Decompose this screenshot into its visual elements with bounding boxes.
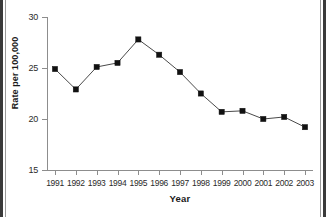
- x-tick-label-1991: 1991: [46, 178, 64, 188]
- data-point-1993: [94, 64, 99, 69]
- y-tick-label-30: 30: [28, 12, 38, 22]
- x-axis-title: Year: [47, 193, 313, 204]
- x-tick-1997: [180, 170, 181, 175]
- x-tick-label-1997: 1997: [171, 178, 189, 188]
- x-tick-1999: [222, 170, 223, 175]
- x-tick-1998: [201, 170, 202, 175]
- x-tick-label-2003: 2003: [296, 178, 314, 188]
- y-tick-label-15: 15: [28, 165, 38, 175]
- chart-figure: 15202530 1991199219931994199519961997199…: [0, 0, 326, 217]
- x-tick-1993: [97, 170, 98, 175]
- data-point-1994: [115, 60, 120, 65]
- data-point-1995: [136, 37, 141, 42]
- data-point-1997: [177, 69, 182, 74]
- x-tick-label-1996: 1996: [150, 178, 168, 188]
- x-tick-1994: [118, 170, 119, 175]
- x-tick-label-1994: 1994: [109, 178, 127, 188]
- series-line: [55, 39, 305, 127]
- x-tick-1992: [76, 170, 77, 175]
- data-point-2003: [302, 125, 307, 130]
- x-tick-1995: [138, 170, 139, 175]
- data-point-2001: [261, 116, 266, 121]
- data-point-2000: [240, 108, 245, 113]
- page-rule-right: [320, 0, 321, 217]
- x-tick-label-1995: 1995: [129, 178, 147, 188]
- y-tick-label-20: 20: [28, 114, 38, 124]
- data-point-1999: [219, 109, 224, 114]
- data-point-1991: [52, 66, 57, 71]
- x-tick-label-2001: 2001: [254, 178, 272, 188]
- y-tick-15: 15: [42, 170, 47, 171]
- x-tick-label-1993: 1993: [88, 178, 106, 188]
- x-tick-2003: [305, 170, 306, 175]
- y-tick-label-25: 25: [28, 63, 38, 73]
- x-tick-1991: [55, 170, 56, 175]
- x-tick-2002: [284, 170, 285, 175]
- x-tick-label-2000: 2000: [234, 178, 252, 188]
- page-rule-left: [5, 0, 6, 217]
- data-point-1992: [73, 87, 78, 92]
- x-tick-2000: [243, 170, 244, 175]
- data-point-2002: [282, 114, 287, 119]
- plot-area: 15202530 1991199219931994199519961997199…: [47, 17, 313, 170]
- x-tick-label-2002: 2002: [275, 178, 293, 188]
- x-tick-label-1999: 1999: [213, 178, 231, 188]
- data-point-1996: [157, 52, 162, 57]
- x-tick-2001: [263, 170, 264, 175]
- y-axis-title: Rate per 100,000: [10, 13, 20, 133]
- page-edge-left: [0, 0, 3, 217]
- x-tick-label-1992: 1992: [67, 178, 85, 188]
- x-tick-1996: [159, 170, 160, 175]
- data-point-1998: [198, 91, 203, 96]
- x-tick-label-1998: 1998: [192, 178, 210, 188]
- data-series: [47, 17, 313, 170]
